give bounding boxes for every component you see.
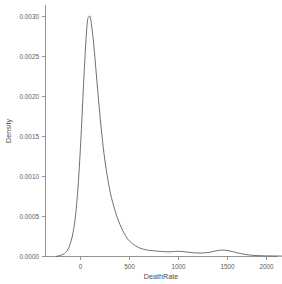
y-tick-label: 0.0005 (19, 213, 39, 220)
density-plot-figure: 0.0000 0.0005 0.0010 0.0015 0.0020 0.002… (0, 0, 282, 284)
y-tick-label: 0.0000 (19, 253, 39, 260)
x-tick-label: 0 (79, 263, 83, 270)
y-tick-label: 0.0010 (19, 173, 39, 180)
y-axis-title: Density (4, 119, 13, 143)
x-tick-label: 1000 (171, 263, 186, 270)
y-tick-label: 0.0020 (19, 93, 39, 100)
x-tick-label: 500 (124, 263, 135, 270)
x-tick-label: 2000 (259, 263, 274, 270)
figure-background (0, 0, 282, 284)
plot-canvas: 0.0000 0.0005 0.0010 0.0015 0.0020 0.002… (0, 0, 282, 284)
y-tick-label: 0.0025 (19, 53, 39, 60)
y-tick-label: 0.0030 (19, 13, 39, 20)
x-axis-title: DeathRate (144, 272, 178, 281)
x-tick-label: 1500 (220, 263, 235, 270)
y-tick-label: 0.0015 (19, 133, 39, 140)
